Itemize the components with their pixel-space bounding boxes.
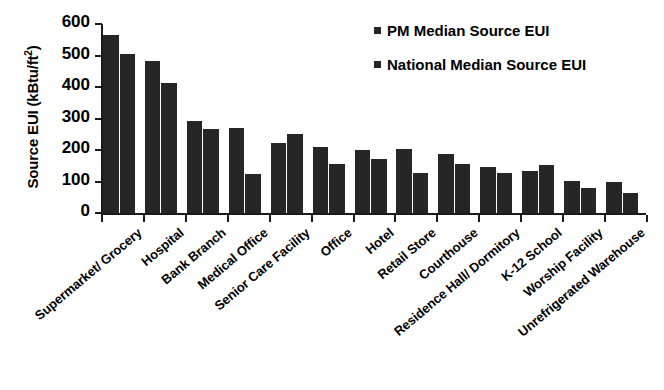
y-axis-tick: 500	[95, 55, 102, 57]
bar-national-median	[581, 188, 597, 213]
legend-item-pm-median: PM Median Source EUI	[374, 22, 644, 39]
bar-pm-median	[480, 167, 496, 213]
y-axis-title: Source EUI (kBtu/ft2)	[23, 7, 41, 227]
x-axis-tick	[269, 215, 271, 222]
legend-label-national-median: National Median Source EUI	[387, 56, 586, 73]
bar-national-median	[623, 193, 639, 213]
y-axis-tick-label: 0	[81, 201, 90, 221]
bar-pm-median	[438, 154, 454, 213]
legend-swatch-icon	[374, 27, 381, 34]
bar-national-median	[371, 159, 387, 213]
x-axis-tick	[311, 215, 313, 222]
bar-pm-median	[229, 128, 245, 213]
x-axis-tick	[353, 215, 355, 222]
x-axis-tick	[143, 215, 145, 222]
bar-pm-median	[187, 121, 203, 213]
bar-national-median	[539, 165, 555, 213]
x-axis-label: Supermarket/ Grocery	[32, 225, 145, 323]
x-axis-label: Senior Care Facility	[212, 225, 313, 313]
y-axis-tick-label: 200	[62, 138, 90, 158]
bar-group	[187, 24, 229, 213]
y-axis-tick-label: 400	[62, 75, 90, 95]
y-axis-title-text: Source EUI (kBtu/ft	[24, 56, 41, 189]
x-axis-tick	[394, 215, 396, 222]
x-axis-tick	[646, 215, 648, 222]
y-axis-tick-label: 100	[62, 170, 90, 190]
x-axis-label: Office	[317, 225, 354, 260]
bar-national-median	[161, 83, 177, 213]
bar-pm-median	[355, 150, 371, 213]
bar-pm-median	[145, 61, 161, 213]
bar-national-median	[413, 173, 429, 213]
y-axis-tick-label: 600	[62, 12, 90, 32]
x-axis-tick	[101, 215, 103, 222]
x-axis-label: Hotel	[362, 225, 396, 257]
x-axis-label: Hospital	[139, 225, 187, 269]
x-axis-tick	[520, 215, 522, 222]
x-axis-line	[101, 213, 646, 215]
x-axis-label: Worship Facility	[521, 225, 606, 300]
x-axis-tick	[436, 215, 438, 222]
bar-national-median	[497, 173, 513, 213]
y-axis-tick-label: 300	[62, 107, 90, 127]
y-axis-title-exponent: 2	[23, 50, 34, 55]
chart-legend: PM Median Source EUI National Median Sou…	[374, 22, 644, 90]
x-axis-tick	[478, 215, 480, 222]
x-axis-tick	[227, 215, 229, 222]
bar-group	[229, 24, 271, 213]
legend-label-pm-median: PM Median Source EUI	[387, 22, 550, 39]
bar-pm-median	[103, 35, 119, 213]
y-axis-tick: 400	[95, 86, 102, 88]
bar-national-median	[120, 54, 136, 213]
bar-group	[313, 24, 355, 213]
bar-national-median	[287, 134, 303, 213]
y-axis-tick-label: 500	[62, 44, 90, 64]
bar-group	[271, 24, 313, 213]
x-axis-tick	[185, 215, 187, 222]
y-axis-tick: 300	[95, 118, 102, 120]
bar-national-median	[455, 164, 471, 213]
bar-pm-median	[271, 143, 287, 213]
x-axis-label: Retail Store	[374, 225, 438, 282]
bar-pm-median	[396, 149, 412, 213]
bar-national-median	[203, 129, 219, 213]
bar-pm-median	[564, 181, 580, 213]
legend-item-national-median: National Median Source EUI	[374, 56, 644, 73]
y-axis-tick: 200	[95, 149, 102, 151]
x-axis-label: Residence Hall/ Dormitory	[391, 225, 523, 339]
bar-national-median	[245, 174, 261, 213]
bar-pm-median	[606, 182, 622, 213]
x-axis-tick	[604, 215, 606, 222]
bar-group	[103, 24, 145, 213]
y-axis-tick: 0	[95, 212, 102, 214]
x-axis-label: Bank Branch	[159, 225, 229, 287]
x-axis-tick	[562, 215, 564, 222]
x-axis-label: Medical Office	[195, 225, 271, 292]
x-axis-label: Unrefrigerated Warehouse	[516, 225, 649, 340]
bar-national-median	[329, 164, 345, 213]
y-axis-tick: 600	[95, 23, 102, 25]
bar-pm-median	[313, 147, 329, 213]
bar-chart: Source EUI (kBtu/ft2) 600500400300200100…	[0, 0, 664, 390]
legend-swatch-icon	[374, 61, 381, 68]
x-axis-label: Courthouse	[416, 225, 481, 283]
x-axis-label: K-12 School	[498, 225, 564, 284]
y-axis-tick: 100	[95, 181, 102, 183]
bar-pm-median	[522, 171, 538, 213]
y-axis-title-close: )	[24, 45, 41, 50]
bar-group	[145, 24, 187, 213]
